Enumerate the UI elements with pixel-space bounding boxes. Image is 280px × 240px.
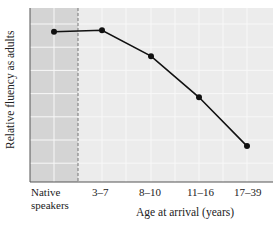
data-point [244, 143, 250, 149]
x-axis-label: Age at arrival (years) [136, 206, 234, 218]
x-tick-label: 8–10 [139, 186, 161, 199]
data-point [196, 94, 202, 100]
data-point [51, 29, 57, 35]
data-point [99, 27, 105, 33]
x-tick-label: Nativespeakers [31, 186, 69, 212]
data-point [148, 53, 154, 59]
x-tick-label: 17–39 [234, 186, 262, 199]
y-axis-label: Relative fluency as adults [4, 39, 16, 149]
x-tick-label: 11–16 [187, 186, 214, 199]
x-tick-label: 3–7 [92, 186, 109, 199]
